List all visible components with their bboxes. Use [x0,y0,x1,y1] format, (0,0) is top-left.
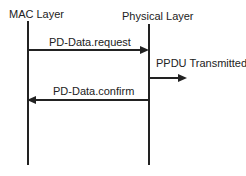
arrowhead-right-icon [178,74,187,82]
message-arrow-ppdu-transmitted [149,77,179,79]
actor-label-mac-layer: MAC Layer [9,8,64,20]
message-label-ppdu-transmitted: PPDU Transmitted [156,57,246,69]
message-label-pd-data-request: PD-Data.request [49,36,131,48]
message-arrow-pd-data-confirm [33,99,148,101]
message-arrow-pd-data-request [28,49,142,51]
message-label-pd-data-confirm: PD-Data.confirm [53,85,134,97]
lifeline-mac-layer [27,21,29,165]
actor-label-physical-layer: Physical Layer [122,10,194,22]
arrowhead-left-icon [27,96,36,104]
sequence-diagram: MAC Layer Physical Layer PD-Data.request… [0,0,246,176]
arrowhead-right-icon [140,46,149,54]
